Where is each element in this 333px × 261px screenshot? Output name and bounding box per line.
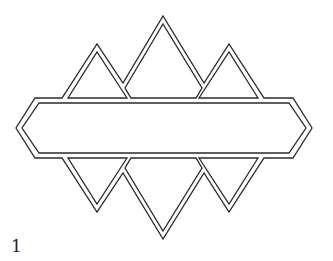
figure-label: 1 <box>11 236 22 256</box>
outer-outline <box>16 16 312 239</box>
banner <box>22 103 306 153</box>
ornament-diagram <box>0 0 333 261</box>
